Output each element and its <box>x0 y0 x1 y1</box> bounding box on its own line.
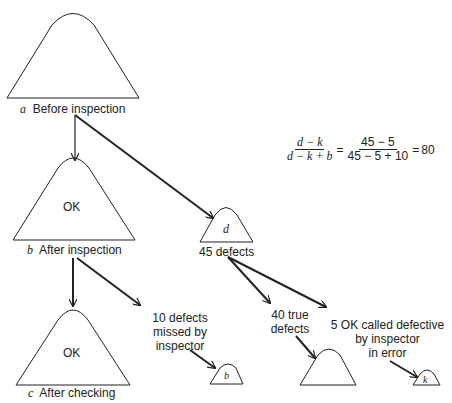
caption-a: a Before inspection <box>20 102 125 116</box>
caption-c: c After checking <box>28 386 115 400</box>
caption-c-text: After checking <box>39 386 115 400</box>
true-line1: 40 true <box>265 308 315 322</box>
missed-line3: inspector <box>140 339 220 353</box>
inner-ok-b: OK <box>63 200 80 214</box>
inner-k: k <box>423 373 427 387</box>
true-line2: defects <box>265 322 315 336</box>
arrow-d-to-k <box>228 257 326 307</box>
population-a-shape <box>7 14 139 99</box>
equals-2: = <box>412 143 419 157</box>
fraction-numeric-den: 45 − 5 + 10 <box>346 150 411 163</box>
missed-label: 10 defects missed by inspector <box>140 311 220 353</box>
letter-a: a <box>20 102 26 116</box>
inner-b-small: b <box>224 369 229 383</box>
arrow-k-label-to-shape <box>390 361 417 377</box>
arrow-a-to-d <box>75 115 213 218</box>
yield-formula: d − k d − k + b = 45 − 5 45 − 5 + 10 = 8… <box>283 136 435 163</box>
k-line3: in error <box>325 346 450 360</box>
fraction-numeric: 45 − 5 45 − 5 + 10 <box>346 136 411 163</box>
arrow-b-to-missed <box>77 258 140 305</box>
k-line1: 5 OK called defective <box>325 318 450 332</box>
population-b-shape <box>13 158 135 240</box>
fraction-symbolic-den: d − k + b <box>285 150 335 163</box>
fraction-numeric-num: 45 − 5 <box>359 136 397 150</box>
letter-b: b <box>27 243 33 257</box>
missed-line1: 10 defects <box>140 311 220 325</box>
fraction-symbolic: d − k d − k + b <box>285 136 335 163</box>
caption-b: b After inspection <box>27 243 122 257</box>
inner-d: d <box>223 222 229 236</box>
true-defects-label: 40 true defects <box>265 308 315 336</box>
caption-a-text: Before inspection <box>33 102 126 116</box>
caption-b-text: After inspection <box>39 243 122 257</box>
inspection-diagram: a Before inspection OK b After inspectio… <box>0 0 452 403</box>
arrow-d-to-true <box>228 257 270 303</box>
missed-line2: missed by <box>140 325 220 339</box>
caption-d: 45 defects <box>199 245 254 259</box>
letter-c: c <box>28 386 33 400</box>
inner-ok-c: OK <box>63 346 80 360</box>
formula-result: 80 <box>421 143 434 157</box>
fraction-symbolic-num: d − k <box>295 136 324 150</box>
equals-1: = <box>337 143 344 157</box>
k-line2: by inspector <box>325 332 450 346</box>
k-label: 5 OK called defective by inspector in er… <box>325 318 450 360</box>
arrow-true-label-to-shape <box>296 336 315 358</box>
